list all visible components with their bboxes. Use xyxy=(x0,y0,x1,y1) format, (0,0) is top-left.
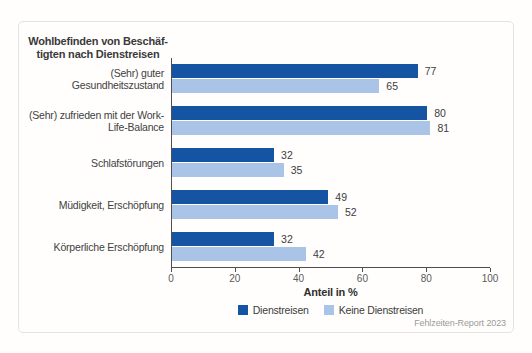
bar-value-label-keine-dienstreisen-4: 42 xyxy=(313,247,325,261)
x-axis-label: Anteil in % xyxy=(171,286,490,298)
bar-value-label-dienstreisen-3: 49 xyxy=(335,190,347,204)
bar-dienstreisen-3 xyxy=(172,190,328,204)
bar-dienstreisen-1 xyxy=(172,106,427,120)
legend-item-keine-dienstreisen: Keine Dienstreisen xyxy=(324,304,424,316)
x-tick-label-40: 40 xyxy=(293,273,304,284)
category-label-m-digkeit-ersch-pfung: Müdigkeit, Erschöpfung xyxy=(0,198,164,211)
x-tick-20 xyxy=(235,268,236,272)
bar-keine-dienstreisen-2 xyxy=(172,163,284,177)
x-tick-label-100: 100 xyxy=(482,273,499,284)
legend-swatch-keine-dienstreisen xyxy=(324,305,334,315)
bar-value-label-dienstreisen-4: 32 xyxy=(281,232,293,246)
bar-keine-dienstreisen-0 xyxy=(172,79,379,93)
x-axis: 020406080100 xyxy=(171,268,493,288)
figure: Wohlbefinden von Beschäf- tigten nach Di… xyxy=(0,0,532,353)
bar-keine-dienstreisen-4 xyxy=(172,247,306,261)
x-tick-60 xyxy=(362,268,363,272)
x-tick-label-20: 20 xyxy=(229,273,240,284)
x-tick-label-80: 80 xyxy=(421,273,432,284)
bar-value-label-keine-dienstreisen-3: 52 xyxy=(345,205,357,219)
bar-value-label-keine-dienstreisen-2: 35 xyxy=(291,163,303,177)
bar-keine-dienstreisen-3 xyxy=(172,205,338,219)
legend-swatch-dienstreisen xyxy=(238,305,248,315)
bar-value-label-keine-dienstreisen-1: 81 xyxy=(437,121,449,135)
category-labels: (Sehr) guterGesundheitszustand(Sehr) zuf… xyxy=(0,58,164,268)
x-tick-label-0: 0 xyxy=(168,273,174,284)
x-tick-100 xyxy=(490,268,491,272)
source-note: Fehlzeiten-Report 2023 xyxy=(414,318,506,328)
x-tick-80 xyxy=(426,268,427,272)
category-label-k-rperliche-ersch-pfung: Körperliche Erschöpfung xyxy=(0,240,164,253)
bar-value-label-dienstreisen-1: 80 xyxy=(434,106,446,120)
bar-value-label-dienstreisen-0: 77 xyxy=(425,64,437,78)
bar-value-label-keine-dienstreisen-0: 65 xyxy=(386,79,398,93)
bar-value-label-dienstreisen-2: 32 xyxy=(281,148,293,162)
chart-title-line1: Wohlbefinden von Beschäf- xyxy=(24,35,172,48)
category-label-sehr-zufrieden-mit-der-work-li: (Sehr) zufrieden mit der Work-Life-Balan… xyxy=(0,108,164,133)
category-label-schlafst-rungen: Schlafstörungen xyxy=(0,156,164,169)
bar-keine-dienstreisen-1 xyxy=(172,121,430,135)
bar-dienstreisen-0 xyxy=(172,64,418,78)
plot-area: 77803249326581355242 xyxy=(171,58,490,268)
x-tick-40 xyxy=(299,268,300,272)
category-label-sehr-guter-gesundheitszustand: (Sehr) guterGesundheitszustand xyxy=(0,66,164,91)
bar-dienstreisen-2 xyxy=(172,148,274,162)
legend-item-dienstreisen: Dienstreisen xyxy=(238,304,309,316)
x-tick-label-60: 60 xyxy=(357,273,368,284)
bar-dienstreisen-4 xyxy=(172,232,274,246)
legend-label-dienstreisen: Dienstreisen xyxy=(253,304,309,316)
x-tick-0 xyxy=(171,268,172,272)
legend-label-keine-dienstreisen: Keine Dienstreisen xyxy=(339,304,424,316)
legend: DienstreisenKeine Dienstreisen xyxy=(171,304,490,316)
